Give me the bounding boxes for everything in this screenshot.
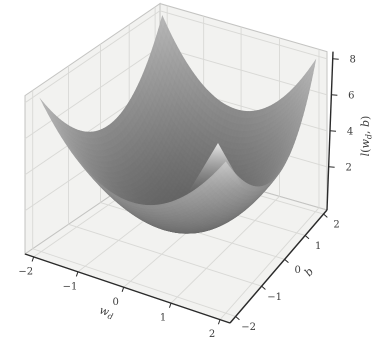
surface-plot-canvas: [0, 0, 388, 344]
loss-surface-figure: w_d b l(w_d, b): [0, 0, 388, 344]
